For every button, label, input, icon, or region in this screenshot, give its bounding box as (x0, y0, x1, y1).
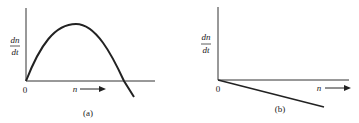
figure: dn dt 0 n (a) dn dt 0 n (b) (0, 0, 359, 123)
arrow-right-icon (99, 86, 106, 92)
panel-b-origin-label: 0 (216, 84, 221, 94)
panel-b-x-label: n (317, 83, 322, 93)
panel-b-caption: (b) (275, 104, 286, 114)
panel-a-ylabel-num: dn (11, 35, 21, 45)
panel-a-curve (26, 24, 134, 97)
panel-a-ylabel-den: dt (11, 47, 19, 57)
arrow-right-icon (344, 85, 351, 91)
panel-a-caption: (a) (83, 108, 93, 118)
panel-b-curve (218, 80, 324, 107)
panel-a: dn dt 0 n (a) (10, 8, 155, 118)
panel-a-origin-label: 0 (23, 85, 28, 95)
panel-b-ylabel-den: dt (202, 45, 210, 55)
panel-a-x-label: n (73, 84, 78, 94)
panel-b: dn dt 0 n (b) (201, 7, 351, 114)
panel-b-ylabel-num: dn (202, 32, 212, 42)
